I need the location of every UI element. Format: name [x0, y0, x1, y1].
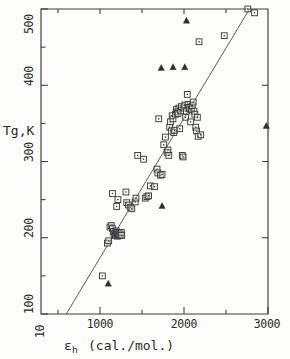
data-point-triangle — [158, 65, 164, 71]
data-point-square — [129, 206, 135, 212]
data-point-square — [135, 153, 141, 159]
y-tick-label-200: 200 — [22, 218, 36, 238]
data-point-square — [133, 195, 139, 201]
data-point-triangle — [183, 17, 189, 23]
data-point-square — [221, 33, 227, 39]
x-tick-label-1000: 1000 — [87, 317, 114, 331]
data-point-square — [110, 191, 116, 197]
data-point-triangle — [182, 64, 188, 70]
y-tick-label-100: 100 — [22, 294, 36, 314]
x-tick-label-3000: 3000 — [254, 317, 281, 331]
data-point-triangle — [170, 64, 176, 70]
series-filled-triangles — [105, 17, 269, 286]
data-point-square — [245, 6, 251, 12]
x-tick-label-2000: 2000 — [171, 317, 198, 331]
x-axis-minor-ticks — [58, 310, 226, 314]
data-point-square — [99, 273, 105, 279]
data-point-square — [114, 204, 120, 210]
x-axis-title-subscript: h — [72, 344, 78, 355]
series-open-squares — [99, 6, 257, 279]
data-point-square — [141, 156, 147, 162]
data-point-triangle — [105, 280, 111, 286]
data-point-square — [166, 153, 172, 159]
y-axis-right-ticks — [262, 85, 268, 238]
x-axis-title-epsilon: ε — [64, 338, 72, 353]
x-axis-title-units: (cal./mol.) — [88, 338, 174, 353]
y-tick-label-500: 500 — [22, 14, 36, 34]
data-point-square — [198, 132, 204, 138]
y-axis-tick-labels: 100 200 300 400 500 — [22, 14, 36, 314]
data-point-square — [123, 189, 129, 195]
data-point-square — [156, 116, 162, 122]
data-point-square — [190, 99, 196, 105]
y-tick-label-300: 300 — [22, 142, 36, 162]
regression-line — [66, 9, 249, 314]
data-point-triangle — [159, 203, 165, 209]
data-point-square — [106, 238, 112, 244]
data-point-square — [146, 193, 152, 199]
data-point-square — [115, 197, 121, 203]
data-point-square — [184, 92, 190, 98]
plot-frame — [41, 9, 268, 314]
x-origin-label-10: 10 — [33, 324, 47, 338]
y-tick-label-400: 400 — [22, 66, 36, 86]
data-point-square — [194, 114, 200, 120]
data-point-square — [159, 172, 165, 178]
data-point-square — [252, 10, 258, 16]
y-axis-title: Tg,K — [3, 123, 34, 138]
data-point-square — [119, 233, 125, 239]
x-axis-major-ticks — [100, 307, 268, 314]
data-point-square — [163, 134, 169, 140]
x-axis-tick-labels: 1000 2000 3000 — [87, 317, 281, 331]
data-point-square — [196, 39, 202, 45]
figure-page: 100 200 300 400 500 10 1000 2000 3000 Tg… — [0, 0, 290, 359]
data-point-square — [177, 126, 183, 132]
scatter-plot-figure: 100 200 300 400 500 10 1000 2000 3000 Tg… — [0, 0, 290, 359]
x-axis-title: ε h (cal./mol.) — [64, 338, 174, 355]
data-point-square — [152, 184, 158, 190]
data-point-square — [180, 154, 186, 160]
y-axis-major-ticks — [41, 9, 48, 314]
x-axis-top-ticks — [58, 9, 226, 14]
